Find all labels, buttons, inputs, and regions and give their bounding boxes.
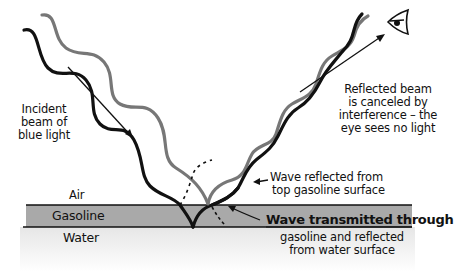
eye-icon [388,10,408,34]
pointer-wave-reflected [253,178,268,185]
label-reflected-beam: Reflected beam is canceled by interferen… [328,83,448,135]
label-water: Water [63,231,99,244]
label-air: Air [69,189,84,202]
arrow-down-right-icon [68,67,133,138]
label-incident-beam: Incident beam of blue light [12,103,76,142]
label-wave-reflected-top: Wave reflected from top gasoline surface [270,171,385,197]
label-wave-transmitted-title: Wave transmitted through [266,213,453,226]
label-wave-transmitted-body: gasoline and reflected from water surfac… [272,231,412,257]
label-gasoline: Gasoline [52,209,104,222]
